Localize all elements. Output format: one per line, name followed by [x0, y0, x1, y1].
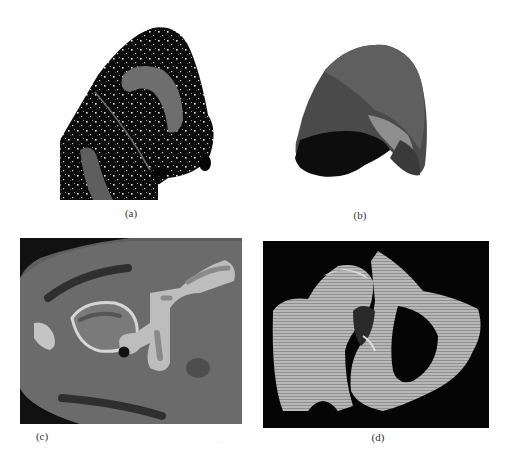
ct-slice-image [20, 238, 242, 424]
panel-c-ct-slice [20, 238, 242, 424]
panel-b-lobe-rendering [290, 40, 440, 185]
lobe-3d-image [290, 40, 440, 185]
stray-mark: · · · [218, 440, 231, 445]
bone-3d-image [263, 241, 489, 428]
panel-a-caption: (a) [111, 207, 151, 219]
panel-a-lung-segmentation [58, 20, 218, 205]
panel-d-caption: (d) [358, 431, 398, 443]
lung-slice-image [58, 20, 218, 205]
panel-d-bone-rendering [263, 241, 489, 428]
panel-c-caption: (c) [22, 430, 62, 442]
panel-b-caption: (b) [340, 209, 380, 221]
